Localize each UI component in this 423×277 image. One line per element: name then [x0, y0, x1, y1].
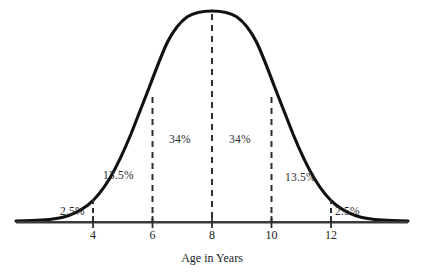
- region-label-right-outer: 13.5%: [285, 171, 316, 183]
- region-label-right-tail: 2.5%: [335, 205, 360, 217]
- x-tick-label-6: 6: [150, 228, 156, 243]
- region-label-right-inner: 34%: [229, 133, 251, 145]
- region-label-left-outer: 13.5%: [103, 169, 134, 181]
- x-tick-label-10: 10: [266, 228, 278, 243]
- x-tick-label-12: 12: [325, 228, 337, 243]
- normal-distribution-figure: 2.5% 13.5% 34% 34% 13.5% 2.5% 4 6 8 10 1…: [0, 0, 423, 277]
- x-tick-label-8: 8: [209, 228, 215, 243]
- x-axis-title: Age in Years: [181, 251, 243, 266]
- region-label-left-tail: 2.5%: [60, 205, 85, 217]
- region-label-left-inner: 34%: [169, 133, 191, 145]
- x-tick-label-4: 4: [90, 228, 96, 243]
